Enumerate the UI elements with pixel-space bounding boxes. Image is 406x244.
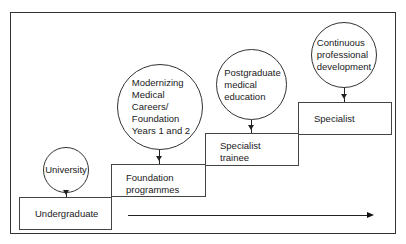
provider-university-circle: University xyxy=(43,147,89,193)
stage-specialist-trainee-line-1: Specialist xyxy=(220,140,261,152)
stage-specialist-label: Specialist xyxy=(314,113,355,125)
arrow-right-icon xyxy=(367,212,374,218)
stage-undergraduate-label: Undergraduate xyxy=(35,208,98,220)
stage-foundation-label: Foundation programmes xyxy=(126,172,179,196)
provider-pgme-label: Postgraduate medical education xyxy=(224,67,281,103)
stage-specialist-trainee-label: Specialist trainee xyxy=(220,140,261,164)
stage-foundation-line-2: programmes xyxy=(126,184,179,196)
provider-cpd-circle: Continuous professional development xyxy=(311,22,377,88)
stage-specialist-trainee-line-2: trainee xyxy=(220,152,261,164)
stage-foundation-line-1: Foundation xyxy=(126,172,179,184)
provider-pgme-circle: Postgraduate medical education xyxy=(216,49,287,120)
provider-cpd-label: Continuous professional development xyxy=(317,37,371,73)
provider-mmc-circle: Modernizing Medical Careers/ Foundation … xyxy=(117,64,203,150)
provider-university-label: University xyxy=(45,164,87,176)
arrow-down-icon xyxy=(341,94,347,99)
arrow-down-icon xyxy=(156,156,162,161)
arrow-down-icon xyxy=(63,190,69,195)
provider-mmc-label: Modernizing Medical Careers/ Foundation … xyxy=(132,77,190,137)
progression-arrow-line xyxy=(128,215,368,216)
arrow-down-icon xyxy=(248,125,254,130)
